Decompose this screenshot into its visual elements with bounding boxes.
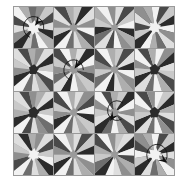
tile-r3c3	[135, 134, 174, 175]
tile-r2c1	[54, 92, 93, 133]
tile-r0c2	[95, 7, 134, 48]
tile-r0c0	[14, 7, 53, 48]
tile-r1c3	[135, 49, 174, 90]
tile-r1c2	[95, 49, 134, 90]
tile-r1c1	[54, 49, 93, 90]
tile-r1c0	[14, 49, 53, 90]
tile-r3c0	[14, 134, 53, 175]
tile-r0c3	[135, 7, 174, 48]
tile-r2c0	[14, 92, 53, 133]
tile-r3c1	[54, 134, 93, 175]
texture-grid-figure	[0, 0, 181, 186]
tile-grid	[13, 6, 175, 176]
tile-r2c2	[95, 92, 134, 133]
tile-r0c1	[54, 7, 93, 48]
tile-r2c3	[135, 92, 174, 133]
tile-r3c2	[95, 134, 134, 175]
